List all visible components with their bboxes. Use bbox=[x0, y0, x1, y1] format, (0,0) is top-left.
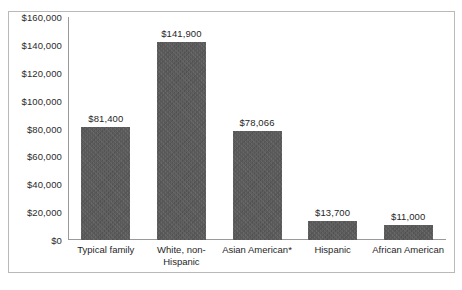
bar[interactable] bbox=[384, 225, 433, 240]
bar-value-label: $13,700 bbox=[315, 207, 350, 218]
y-axis-tick-label: $120,000 bbox=[22, 67, 62, 78]
bar[interactable] bbox=[233, 131, 282, 240]
bar-value-label: $78,066 bbox=[239, 117, 274, 128]
y-axis-tick-label: $20,000 bbox=[27, 207, 62, 218]
x-axis-category-label: African American bbox=[370, 244, 446, 256]
y-axis-tick-label: $60,000 bbox=[27, 151, 62, 162]
bar-group: $78,066 bbox=[233, 17, 282, 240]
x-axis-category-label: Typical family bbox=[68, 244, 144, 256]
y-axis: $0$20,000$40,000$60,000$80,000$100,000$1… bbox=[0, 0, 68, 290]
bar-chart: $0$20,000$40,000$60,000$80,000$100,000$1… bbox=[0, 0, 462, 290]
bar-value-label: $11,000 bbox=[391, 211, 425, 222]
y-axis-tick-label: $40,000 bbox=[27, 179, 62, 190]
bar-group: $141,900 bbox=[157, 17, 206, 240]
bar-group: $81,400 bbox=[81, 17, 130, 240]
y-axis-tick-label: $140,000 bbox=[22, 39, 62, 50]
bar[interactable] bbox=[308, 221, 357, 240]
x-axis-category-label: Asian American* bbox=[219, 244, 295, 256]
y-axis-tick-label: $0 bbox=[51, 235, 62, 246]
y-axis-tick-label: $100,000 bbox=[22, 95, 62, 106]
bar-group: $11,000 bbox=[384, 17, 433, 240]
x-axis-category-label: White, non- Hispanic bbox=[144, 244, 220, 267]
bar-group: $13,700 bbox=[308, 17, 357, 240]
y-axis-tick-label: $160,000 bbox=[22, 12, 62, 23]
bar-value-label: $81,400 bbox=[88, 113, 123, 124]
bar[interactable] bbox=[157, 42, 206, 240]
x-axis-category-label: Hispanic bbox=[295, 244, 371, 256]
bar[interactable] bbox=[81, 127, 130, 240]
y-axis-tick-label: $80,000 bbox=[27, 123, 62, 134]
bar-value-label: $141,900 bbox=[161, 28, 201, 39]
